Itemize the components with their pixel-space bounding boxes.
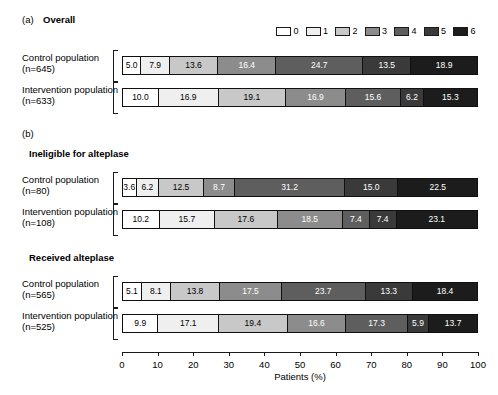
bar-segment-1: 8.1 xyxy=(142,283,171,300)
bar-a-intervention: 10.016.919.116.915.66.215.3 xyxy=(122,88,478,107)
x-tick-50 xyxy=(300,352,301,356)
legend-item-3: 3 xyxy=(365,27,388,36)
bracket-b-control xyxy=(113,172,117,204)
bar-segment-4: 7.4 xyxy=(343,211,370,228)
bar-segment-0: 10.0 xyxy=(123,89,159,106)
bar-segment-value: 6.2 xyxy=(406,93,418,102)
panel-tag-b: (b) xyxy=(22,128,34,139)
bar-segment-value: 23.1 xyxy=(428,215,445,224)
bar-segment-value: 5.1 xyxy=(126,287,138,296)
legend-label-2: 2 xyxy=(353,27,358,36)
x-tick-label-40: 40 xyxy=(259,359,270,370)
legend-label-1: 1 xyxy=(323,27,328,36)
bar-segment-value: 17.6 xyxy=(238,215,255,224)
bar-segment-5: 5.9 xyxy=(408,315,430,332)
x-tick-label-80: 80 xyxy=(402,359,413,370)
bracket-c-intervention xyxy=(113,308,117,340)
legend-swatch-3-icon xyxy=(365,27,380,36)
legend-swatch-5-icon xyxy=(424,27,439,36)
legend-item-1: 1 xyxy=(306,27,329,36)
row-label-c-control-name: Control population xyxy=(22,278,99,289)
legend-swatch-2-icon xyxy=(335,27,350,36)
bar-segment-0: 5.0 xyxy=(123,57,141,74)
legend-item-2: 2 xyxy=(335,27,358,36)
bar-segment-value: 5.9 xyxy=(412,319,424,328)
bar-segment-value: 16.9 xyxy=(180,93,197,102)
row-label-c-control-n: (n=565) xyxy=(22,289,99,300)
x-tick-0 xyxy=(122,352,123,356)
bar-segment-value: 7.4 xyxy=(377,215,389,224)
bar-segment-1: 6.2 xyxy=(137,179,160,196)
bar-segment-value: 13.3 xyxy=(380,287,397,296)
bar-segment-0: 5.1 xyxy=(123,283,142,300)
row-label-b-intervention-name: Intervention population xyxy=(22,206,118,217)
x-tick-30 xyxy=(229,352,230,356)
x-tick-label-70: 70 xyxy=(366,359,377,370)
bar-segment-5: 13.5 xyxy=(363,57,411,74)
x-tick-10 xyxy=(158,352,159,356)
bar-segment-3: 8.7 xyxy=(204,179,235,196)
bar-segment-2: 13.6 xyxy=(170,57,218,74)
legend-label-4: 4 xyxy=(412,27,417,36)
x-tick-label-0: 0 xyxy=(119,359,124,370)
bar-segment-value: 15.0 xyxy=(363,183,380,192)
row-label-a-intervention-name: Intervention population xyxy=(22,84,118,95)
x-tick-label-30: 30 xyxy=(224,359,235,370)
x-tick-label-50: 50 xyxy=(295,359,306,370)
x-tick-label-10: 10 xyxy=(152,359,163,370)
bar-segment-value: 13.7 xyxy=(445,319,462,328)
bar-segment-value: 24.7 xyxy=(311,61,328,70)
bar-segment-4: 31.2 xyxy=(235,179,345,196)
row-label-c-intervention-n: (n=525) xyxy=(22,321,118,332)
bar-segment-5: 6.2 xyxy=(401,89,424,106)
bar-segment-value: 13.8 xyxy=(187,287,204,296)
group-title-ineligible: Ineligible for alteplase xyxy=(29,148,129,159)
bar-segment-1: 17.1 xyxy=(158,315,219,332)
x-tick-40 xyxy=(264,352,265,356)
bar-segment-6: 23.1 xyxy=(397,211,477,228)
bar-segment-3: 18.5 xyxy=(278,211,343,228)
bar-segment-value: 19.1 xyxy=(244,93,261,102)
legend-swatch-0-icon xyxy=(276,27,291,36)
row-label-b-intervention: Intervention population (n=108) xyxy=(22,206,118,228)
panel-title-a: Overall xyxy=(43,14,75,25)
row-label-a-intervention: Intervention population (n=633) xyxy=(22,84,118,106)
bar-segment-2: 12.5 xyxy=(159,179,204,196)
bracket-a-intervention xyxy=(113,82,117,114)
bar-segment-6: 18.4 xyxy=(413,283,477,300)
row-label-c-intervention: Intervention population (n=525) xyxy=(22,310,118,332)
bar-segment-value: 15.3 xyxy=(442,93,459,102)
legend-swatch-6-icon xyxy=(453,27,468,36)
x-tick-label-90: 90 xyxy=(437,359,448,370)
x-tick-70 xyxy=(371,352,372,356)
bar-segment-6: 15.3 xyxy=(424,89,477,106)
row-label-c-intervention-name: Intervention population xyxy=(22,310,118,321)
bar-segment-value: 22.5 xyxy=(429,183,446,192)
bar-segment-2: 19.4 xyxy=(219,315,288,332)
bar-b-intervention: 10.215.717.618.57.47.423.1 xyxy=(122,210,478,229)
row-label-a-control-n: (n=645) xyxy=(22,63,99,74)
row-label-b-control-n: (n=80) xyxy=(22,185,99,196)
bracket-c-control xyxy=(113,276,117,308)
legend: 0 1 2 3 4 5 6 xyxy=(276,27,476,36)
bar-segment-value: 7.4 xyxy=(350,215,362,224)
bar-segment-2: 13.8 xyxy=(171,283,220,300)
x-tick-label-60: 60 xyxy=(330,359,341,370)
row-label-a-intervention-n: (n=633) xyxy=(22,95,118,106)
x-tick-20 xyxy=(193,352,194,356)
bar-segment-4: 23.7 xyxy=(282,283,366,300)
row-label-c-control: Control population (n=565) xyxy=(22,278,99,300)
bar-segment-6: 22.5 xyxy=(398,179,477,196)
bar-segment-3: 16.6 xyxy=(288,315,347,332)
bar-segment-4: 17.3 xyxy=(346,315,407,332)
bar-segment-value: 17.1 xyxy=(180,319,197,328)
bar-segment-value: 23.7 xyxy=(315,287,332,296)
row-label-b-control: Control population (n=80) xyxy=(22,174,99,196)
bar-segment-1: 15.7 xyxy=(160,211,216,228)
row-label-a-control-name: Control population xyxy=(22,52,99,63)
bar-segment-value: 18.4 xyxy=(437,287,454,296)
bar-segment-1: 7.9 xyxy=(141,57,169,74)
bar-segment-value: 18.5 xyxy=(301,215,318,224)
bar-segment-value: 17.3 xyxy=(368,319,385,328)
bar-segment-3: 17.5 xyxy=(220,283,282,300)
